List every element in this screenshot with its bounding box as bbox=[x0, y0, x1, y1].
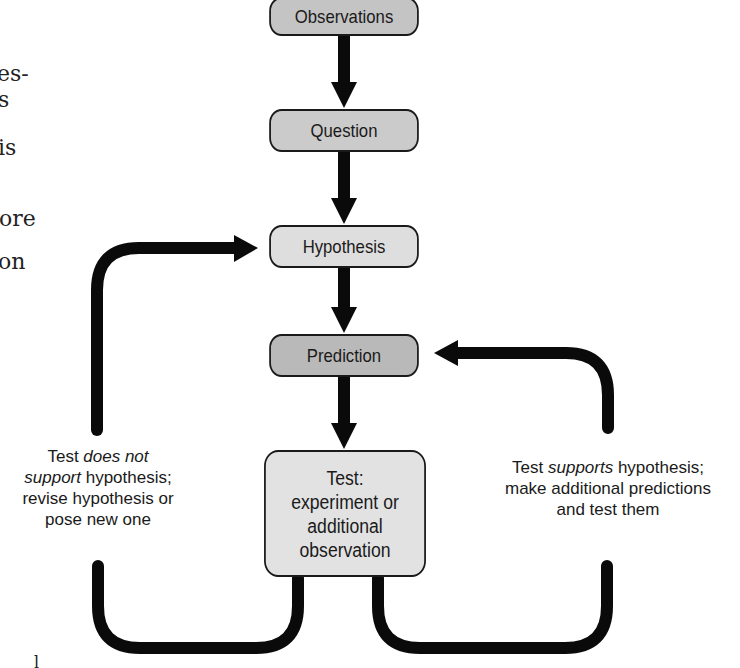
node-label: Prediction bbox=[307, 345, 381, 367]
feedback-line-supports bbox=[456, 353, 608, 428]
feedback-line-not-supported bbox=[97, 248, 236, 426]
arrow-down-icon bbox=[331, 82, 357, 108]
arrow-down-icon bbox=[331, 198, 357, 224]
arrow-right-icon bbox=[234, 235, 258, 262]
node-label: Question bbox=[311, 120, 378, 142]
label-text: Test bbox=[47, 447, 83, 466]
label-text: hypothesis; bbox=[81, 468, 172, 487]
node-hypothesis: Hypothesis bbox=[269, 225, 419, 268]
label-text: revise hypothesis or bbox=[8, 488, 188, 509]
edge-label-not-supported: Test does not support hypothesis; revise… bbox=[8, 446, 188, 530]
node-test: Test: experiment or additional observati… bbox=[264, 450, 426, 577]
arrow-shaft bbox=[338, 36, 350, 86]
node-label: Hypothesis bbox=[303, 236, 386, 258]
edge-label-supports: Test supports hypothesis; make additiona… bbox=[480, 457, 736, 520]
diagram-canvas: es- s . is . ore . on l bbox=[0, 0, 740, 668]
arrow-down-icon bbox=[331, 423, 357, 449]
label-text: make additional predictions bbox=[480, 478, 736, 499]
node-observations: Observations bbox=[269, 0, 419, 36]
node-label-line: observation bbox=[300, 538, 391, 562]
label-text: Test bbox=[512, 458, 548, 477]
label-text: pose new one bbox=[8, 509, 188, 530]
node-label: Observations bbox=[295, 6, 394, 28]
label-text: hypothesis; bbox=[613, 458, 704, 477]
arrow-down-icon bbox=[331, 307, 357, 333]
feedback-line-supports-bottom bbox=[378, 566, 607, 648]
label-text-emphasis: supports bbox=[548, 458, 613, 477]
feedback-line-not-supported-bottom bbox=[98, 566, 298, 648]
arrow-shaft bbox=[338, 377, 350, 425]
node-question: Question bbox=[269, 109, 419, 152]
node-prediction: Prediction bbox=[269, 334, 419, 377]
arrow-shaft bbox=[338, 268, 350, 310]
node-label-line: additional bbox=[307, 514, 382, 538]
arrow-shaft bbox=[338, 152, 350, 202]
label-text-emphasis: support bbox=[24, 468, 81, 487]
node-label-line: Test: bbox=[326, 466, 363, 490]
node-label-line: experiment or bbox=[291, 490, 399, 514]
label-text-emphasis: does not bbox=[83, 447, 148, 466]
label-text: and test them bbox=[480, 499, 736, 520]
